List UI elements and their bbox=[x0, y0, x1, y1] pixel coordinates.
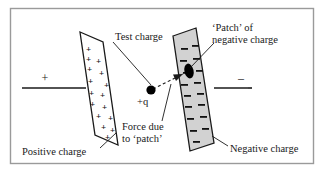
plus-sign: + bbox=[108, 113, 113, 123]
plus-sign: + bbox=[87, 64, 92, 74]
force-label-line1: Force due bbox=[122, 121, 164, 132]
minus-sign bbox=[184, 95, 191, 97]
test-charge-symbol-label: +q bbox=[137, 96, 149, 107]
minus-sign bbox=[202, 128, 209, 130]
minus-sign bbox=[192, 45, 199, 47]
minus-sign bbox=[180, 60, 187, 62]
capacitor-plates-diagram: + – + + + + + + + + + + + + + + + bbox=[0, 0, 325, 180]
minus-sign bbox=[190, 130, 197, 132]
plus-sign: + bbox=[104, 80, 109, 90]
plus-sign: + bbox=[101, 122, 106, 132]
minus-sign bbox=[200, 116, 207, 118]
minus-sign bbox=[197, 93, 204, 95]
positive-charge-label: Positive charge bbox=[22, 146, 87, 157]
minus-sign bbox=[196, 70, 203, 72]
force-label-line2: to ‘patch’ bbox=[122, 133, 163, 144]
minus-sign bbox=[187, 118, 194, 120]
plus-sign: + bbox=[96, 111, 101, 121]
minus-sign bbox=[185, 106, 192, 108]
patch-label-line1: ‘Patch’ of bbox=[212, 22, 253, 33]
plus-sign: + bbox=[100, 90, 105, 100]
plus-sign: + bbox=[86, 44, 91, 54]
plus-sign: + bbox=[102, 102, 107, 112]
negative-terminal-label: – bbox=[237, 71, 245, 85]
plus-sign: + bbox=[88, 76, 93, 86]
minus-sign bbox=[193, 141, 200, 143]
minus-sign bbox=[198, 104, 205, 106]
plus-sign: + bbox=[89, 88, 94, 98]
plus-sign: + bbox=[90, 99, 95, 109]
minus-sign bbox=[181, 48, 188, 50]
test-charge-label: Test charge bbox=[115, 31, 163, 42]
plus-sign: + bbox=[96, 56, 101, 66]
minus-sign bbox=[194, 82, 201, 84]
test-charge-dot bbox=[146, 85, 155, 94]
patch-label-line2: negative charge bbox=[212, 34, 278, 45]
plus-sign: + bbox=[86, 54, 91, 64]
minus-sign bbox=[181, 84, 188, 86]
negative-charge-label: Negative charge bbox=[230, 143, 299, 154]
plus-sign: + bbox=[110, 125, 115, 135]
positive-terminal-label: + bbox=[42, 71, 49, 85]
plus-sign: + bbox=[99, 68, 104, 78]
figure-container: + – + + + + + + + + + + + + + + + bbox=[0, 0, 325, 180]
